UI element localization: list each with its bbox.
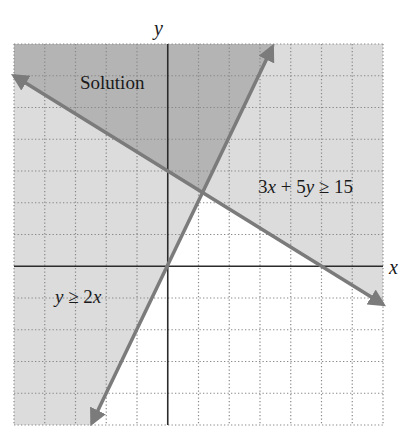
inequality-label-y-2x: y ≥ 2x <box>53 286 102 307</box>
y-axis-label: y <box>152 17 163 40</box>
inequality-graph: y x Solution 3x + 5y ≥ 15 y ≥ 2x <box>0 0 409 444</box>
x-axis-label: x <box>388 256 398 278</box>
inequality-label-3x-5y: 3x + 5y ≥ 15 <box>258 176 353 197</box>
solution-label: Solution <box>80 72 145 93</box>
